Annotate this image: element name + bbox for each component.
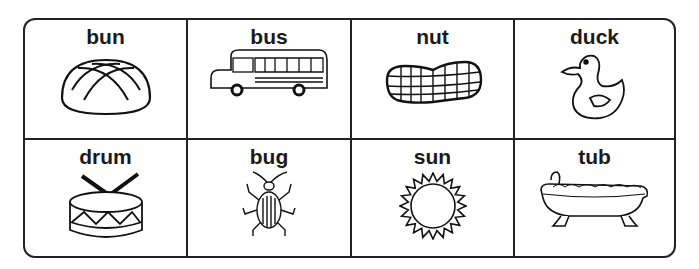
duck-icon <box>560 54 630 124</box>
word-label: bug <box>188 145 350 169</box>
cell-bun: bun <box>25 20 188 140</box>
word-picture-grid: bun bus nut duck <box>23 18 676 258</box>
cell-drum: drum <box>25 140 188 256</box>
bus-icon <box>209 48 329 104</box>
word-label: bus <box>188 25 350 49</box>
word-label: duck <box>515 25 674 49</box>
word-label: tub <box>515 145 674 169</box>
tub-icon <box>539 170 651 228</box>
word-label: sun <box>352 145 513 169</box>
cell-bug: bug <box>188 140 352 256</box>
word-label: bun <box>25 25 186 49</box>
word-label: drum <box>25 145 186 169</box>
drum-icon <box>66 172 146 242</box>
sun-icon <box>399 172 467 240</box>
bug-icon <box>241 170 297 236</box>
cell-sun: sun <box>352 140 515 256</box>
bun-icon <box>58 56 154 116</box>
cell-tub: tub <box>515 140 674 256</box>
nut-icon <box>381 60 485 106</box>
word-label: nut <box>352 25 513 49</box>
cell-duck: duck <box>515 20 674 140</box>
cell-bus: bus <box>188 20 352 140</box>
cell-nut: nut <box>352 20 515 140</box>
